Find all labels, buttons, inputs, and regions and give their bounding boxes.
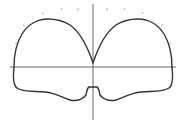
closed-curve-diagram [0, 0, 182, 123]
diagram-canvas [0, 0, 182, 123]
tick-mark [161, 24, 163, 26]
tick-mark [142, 12, 143, 14]
tick-mark [169, 43, 171, 44]
tick-mark [23, 25, 25, 26]
tick-mark [61, 8, 62, 10]
tick-mark [15, 43, 17, 44]
tick-mark [42, 13, 44, 14]
tick-mark [124, 8, 125, 10]
